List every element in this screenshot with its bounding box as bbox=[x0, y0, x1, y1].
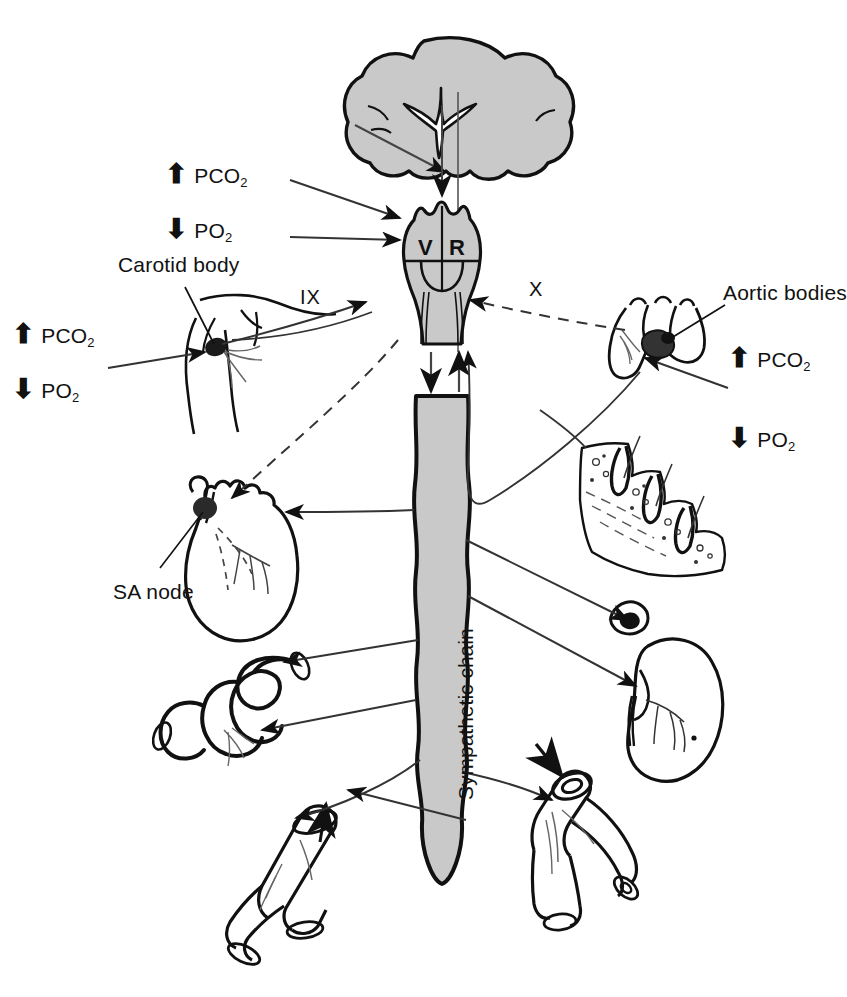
gas-label: PCO2 bbox=[41, 324, 95, 347]
arrow-down-icon: ⬇ bbox=[12, 374, 35, 404]
intestine-illustration bbox=[150, 650, 313, 766]
carotid-body-illustration bbox=[185, 287, 336, 434]
carotid-body-label: Carotid body bbox=[118, 253, 239, 277]
nerve-ix-label: IX bbox=[300, 286, 321, 309]
arrow-up-icon: ⬆ bbox=[12, 319, 35, 349]
central-chemo-pco2-arrow bbox=[290, 180, 400, 218]
arrow-up-icon: ⬆ bbox=[165, 159, 188, 189]
kidney-illustration bbox=[611, 602, 723, 782]
gas-marker-right-po2: ⬇ PO2 bbox=[728, 422, 795, 454]
skin-illustration bbox=[540, 410, 725, 576]
gas-label: PO2 bbox=[194, 219, 232, 242]
sympathetic-to-kidney bbox=[468, 596, 636, 686]
vessel-dilated-illustration bbox=[225, 804, 339, 969]
heart-illustration bbox=[160, 477, 298, 641]
gas-marker-upper-left-po2: ⬇ PO2 bbox=[165, 213, 232, 245]
medulla-illustration bbox=[403, 202, 480, 344]
gas-marker-lower-left-pco2: ⬆ PCO2 bbox=[12, 318, 95, 350]
sympathetic-chain-label: Sympathetic chain bbox=[454, 628, 478, 800]
sympathetic-to-intestine-lower bbox=[262, 700, 416, 730]
vessel-constricted-illustration bbox=[532, 744, 642, 932]
sympathetic-to-intestine-upper bbox=[284, 640, 418, 662]
vasomotor-center-label: V bbox=[418, 235, 433, 261]
gas-marker-upper-left-pco2: ⬆ PCO2 bbox=[165, 158, 248, 190]
vasoconstriction-arrow bbox=[536, 744, 562, 776]
aortic-bodies-label: Aortic bodies bbox=[723, 281, 847, 305]
arrow-down-icon: ⬇ bbox=[165, 214, 188, 244]
gas-label: PO2 bbox=[757, 428, 795, 451]
gas-label: PO2 bbox=[41, 379, 79, 402]
carotid-chemo-stimulus-arrow bbox=[108, 352, 205, 368]
gas-label: PCO2 bbox=[194, 164, 248, 187]
central-chemo-po2-arrow bbox=[290, 237, 400, 240]
respiratory-center-label: R bbox=[449, 235, 465, 261]
sympathetic-to-vessel-left bbox=[296, 760, 420, 818]
brain-illustration bbox=[344, 38, 573, 180]
arrow-up-icon: ⬆ bbox=[728, 343, 751, 373]
gas-marker-right-pco2: ⬆ PCO2 bbox=[728, 342, 811, 374]
nerve-x-label: X bbox=[529, 278, 543, 301]
gas-marker-lower-left-po2: ⬇ PO2 bbox=[12, 373, 79, 405]
nerve-x-afferent-path bbox=[470, 300, 625, 330]
arrow-down-icon: ⬇ bbox=[728, 423, 751, 453]
gas-label: PCO2 bbox=[757, 348, 811, 371]
vagal-efferent-to-heart bbox=[232, 340, 398, 498]
sa-node-label: SA node bbox=[113, 580, 194, 604]
sympathetic-to-heart bbox=[286, 510, 414, 512]
